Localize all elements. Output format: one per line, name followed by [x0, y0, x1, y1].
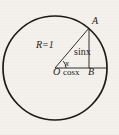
- point-label-b: B: [88, 67, 94, 77]
- point-label-a: A: [92, 16, 98, 26]
- trigonometry-figure: A R=1 sinx x O cosx B: [0, 0, 119, 135]
- radius-label: R=1: [36, 40, 54, 50]
- origin-label-o: O: [53, 67, 60, 77]
- sine-label: sinx: [74, 47, 91, 57]
- cosine-label: cosx: [63, 68, 80, 77]
